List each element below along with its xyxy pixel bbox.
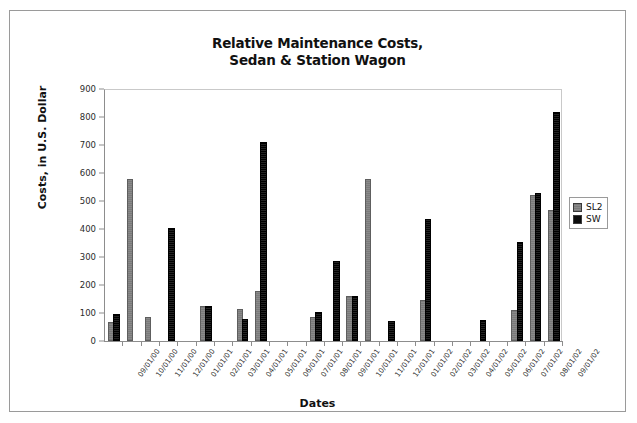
legend-swatch-sl2 xyxy=(573,203,582,212)
chart-frame: Relative Maintenance Costs, Sedan & Stat… xyxy=(9,10,626,412)
bar-sl2 xyxy=(365,179,372,341)
bar-series-container xyxy=(105,89,562,341)
x-axis-tick-mark xyxy=(525,341,526,346)
x-axis-tick-mark xyxy=(251,341,252,346)
x-axis-line xyxy=(104,341,562,342)
x-axis-tick-mark xyxy=(232,341,233,346)
x-axis-tick-mark xyxy=(269,341,270,346)
y-axis-title: Costs, in U.S. Dollar xyxy=(36,48,49,248)
x-axis-tick-mark xyxy=(122,341,123,346)
x-axis-tick-mark xyxy=(379,341,380,346)
x-axis-tick-mark xyxy=(360,341,361,346)
legend-item-sl2: SL2 xyxy=(573,201,602,213)
x-axis-tick-mark xyxy=(141,341,142,346)
x-axis-tick-mark xyxy=(489,341,490,346)
chart-title-line-2: Sedan & Station Wagon xyxy=(10,52,625,69)
bar-sw xyxy=(535,193,542,341)
legend-label-sw: SW xyxy=(586,214,601,224)
x-axis-title: Dates xyxy=(10,397,625,410)
y-axis-tick-label: 0 xyxy=(54,336,96,346)
x-axis-tick-mark xyxy=(306,341,307,346)
y-axis-tick-label: 800 xyxy=(54,112,96,122)
bar-sw xyxy=(113,314,120,341)
bar-sw xyxy=(553,112,560,341)
chart-title: Relative Maintenance Costs, Sedan & Stat… xyxy=(10,35,625,69)
x-axis-tick-mark xyxy=(287,341,288,346)
bar-sw xyxy=(260,142,267,341)
bar-sl2 xyxy=(127,179,134,341)
bar-sw xyxy=(388,321,395,341)
bar-sl2 xyxy=(145,317,152,341)
x-axis-tick-mark xyxy=(562,341,563,346)
x-axis-tick-mark xyxy=(214,341,215,346)
y-axis-tick-label: 100 xyxy=(54,308,96,318)
x-axis-tick-mark xyxy=(397,341,398,346)
bar-sw xyxy=(333,261,340,341)
bar-sw xyxy=(517,242,524,341)
x-axis-tick-mark xyxy=(507,341,508,346)
y-axis-tick-label: 600 xyxy=(54,168,96,178)
bar-sw xyxy=(315,312,322,341)
y-axis-tick-label: 300 xyxy=(54,252,96,262)
bar-sw xyxy=(205,306,212,341)
legend-item-sw: SW xyxy=(573,213,602,225)
y-axis-tick-label: 500 xyxy=(54,196,96,206)
bar-sw xyxy=(352,296,359,341)
bar-sw xyxy=(242,319,249,341)
x-axis-tick-mark xyxy=(544,341,545,346)
chart-legend: SL2 SW xyxy=(569,197,608,229)
chart-title-line-1: Relative Maintenance Costs, xyxy=(212,35,423,51)
y-axis-tick-label: 400 xyxy=(54,224,96,234)
y-axis-tick-label: 900 xyxy=(54,84,96,94)
x-axis-tick-mark xyxy=(177,341,178,346)
x-axis-tick-mark xyxy=(196,341,197,346)
bar-sw xyxy=(480,320,487,341)
x-axis-tick-mark xyxy=(342,341,343,346)
x-axis-tick-mark xyxy=(159,341,160,346)
x-axis-tick-mark xyxy=(452,341,453,346)
y-axis-tick-label: 700 xyxy=(54,140,96,150)
y-axis-tick-label: 200 xyxy=(54,280,96,290)
bar-sw xyxy=(168,228,175,341)
legend-label-sl2: SL2 xyxy=(586,202,602,212)
x-axis-tick-mark xyxy=(434,341,435,346)
x-axis-tick-mark xyxy=(470,341,471,346)
legend-swatch-sw xyxy=(573,215,582,224)
bar-sw xyxy=(425,219,432,341)
x-axis-tick-mark xyxy=(415,341,416,346)
x-axis-tick-mark xyxy=(324,341,325,346)
